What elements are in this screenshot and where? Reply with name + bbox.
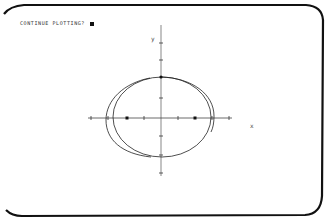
plot-canvas: y x <box>0 0 330 224</box>
screen-frame <box>4 5 323 216</box>
x-axis-label: x <box>250 122 254 129</box>
spiral-outer-arc <box>161 77 214 132</box>
y-axis-label: y <box>151 35 155 43</box>
y-axis: y <box>151 25 163 176</box>
plot-screen: CONTINUE PLOTTING? y x <box>0 0 330 224</box>
focus-left-marker <box>126 117 129 120</box>
top-vertex-marker <box>159 75 162 78</box>
focus-right-marker <box>194 117 197 120</box>
